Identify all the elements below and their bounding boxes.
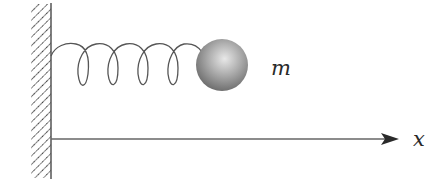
mass-ball: [196, 39, 248, 91]
axis-label: x: [413, 127, 425, 151]
wall: [31, 3, 51, 179]
spring-mass-diagram: m x: [0, 0, 440, 190]
wall-hatching: [31, 4, 51, 178]
x-axis: [51, 133, 399, 145]
mass-label: m: [271, 56, 291, 80]
spring: [51, 44, 202, 86]
